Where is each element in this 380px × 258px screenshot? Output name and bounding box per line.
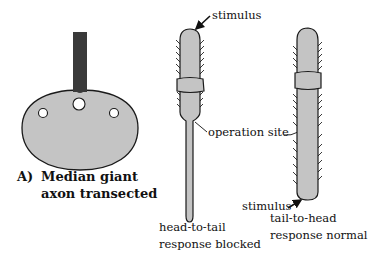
operation-site-pointer-left (195, 122, 207, 132)
nerve-cord-cross-section (22, 32, 138, 170)
worm-left-clitellum (177, 78, 204, 93)
stimulus-label-head: stimulus (212, 8, 262, 22)
transection-probe (73, 32, 87, 92)
panel-a-label-line1: Median giant (41, 169, 138, 184)
diagram-canvas: A) Median giant axon transected stimulus… (0, 0, 380, 258)
worm-left-caption-line1: head-to-tail (159, 220, 226, 234)
lateral-giant-axon-right (110, 109, 119, 118)
median-giant-axon (73, 98, 85, 110)
worm-left-body (180, 29, 200, 222)
panel-a-label-line2: axon transected (41, 186, 157, 201)
worm-right-body (297, 28, 318, 200)
worm-right-clitellum (295, 72, 321, 90)
worm-right-caption-line2: response normal (270, 228, 368, 242)
worm-right (293, 28, 322, 200)
lateral-giant-axon-left (39, 109, 48, 118)
operation-site-label: operation site (208, 125, 289, 139)
panel-letter: A) (16, 169, 33, 184)
stimulus-arrow-head (196, 16, 210, 29)
worm-right-caption-line1: tail-to-head (270, 211, 337, 225)
worm-left-caption-line2: response blocked (159, 237, 261, 251)
